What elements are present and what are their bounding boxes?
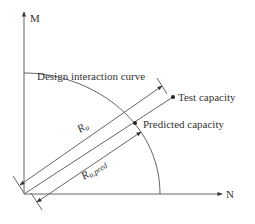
rupred-label: Ru,pred [78,156,110,184]
rupred-tick-start [31,193,42,210]
ru-label: Ru [74,119,91,137]
predicted-capacity-point [133,121,137,125]
ru-tick-start [13,176,24,193]
ru-tick-end [157,78,167,94]
test-capacity-point [171,95,175,99]
predicted-capacity-label: Predicted capacity [143,118,224,130]
n-axis-label: N [226,188,234,200]
interaction-diagram: M N Design interaction curve Test capaci… [0,0,255,224]
test-capacity-label: Test capacity [178,91,236,103]
load-line [24,97,173,194]
rupred-dimension-line [37,132,141,202]
curve-label: Design interaction curve [37,70,145,82]
m-axis-label: M [30,12,40,24]
